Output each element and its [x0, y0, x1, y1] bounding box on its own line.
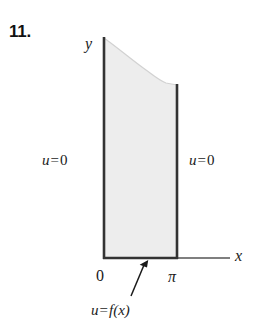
bc-bottom-op: = [99, 302, 109, 318]
bc-left-op: = [50, 152, 60, 168]
bc-right-lhs: u [189, 152, 197, 168]
tick-label-origin: 0 [96, 268, 104, 284]
shaded-region [104, 38, 177, 258]
figure-container: 11. y x 0 π u=0 u=0 u=f(x) [0, 0, 256, 330]
boundary-condition-right: u=0 [189, 153, 214, 168]
domain-diagram [0, 0, 256, 330]
axis-label-x: x [235, 248, 242, 264]
bc-right-rhs: 0 [207, 152, 215, 168]
problem-number: 11. [9, 23, 31, 40]
boundary-condition-bottom: u=f(x) [91, 303, 130, 318]
arrow-up-icon [131, 258, 150, 296]
bc-left-rhs: 0 [60, 152, 68, 168]
boundary-condition-left: u=0 [42, 153, 67, 168]
bc-bottom-lhs: u [91, 302, 99, 318]
bc-left-lhs: u [42, 152, 50, 168]
bc-right-op: = [197, 152, 207, 168]
axis-label-y: y [85, 36, 92, 52]
tick-label-pi: π [168, 269, 176, 285]
bc-bottom-rhs: f(x) [109, 302, 130, 318]
